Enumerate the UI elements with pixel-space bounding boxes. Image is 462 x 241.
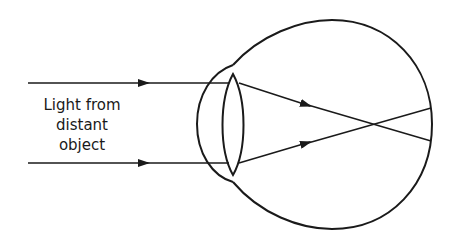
refracted-ray-bottom <box>239 142 310 163</box>
label-line-2: distant <box>22 115 142 135</box>
label-line-3: object <box>22 135 142 155</box>
label-line-1: Light from <box>22 95 142 115</box>
lens <box>223 74 244 175</box>
eye-diagram: Light from distant object <box>0 0 462 241</box>
refracted-ray-top <box>239 83 310 106</box>
eyeball-outline <box>233 20 432 229</box>
light-source-label: Light from distant object <box>22 95 142 155</box>
